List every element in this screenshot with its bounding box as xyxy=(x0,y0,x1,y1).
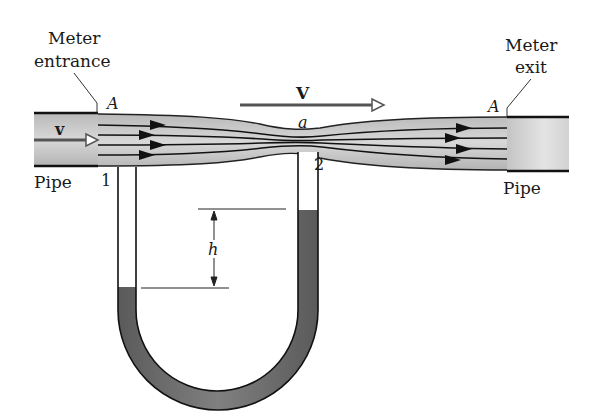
throat-velocity-label: V xyxy=(295,83,310,103)
pipe-right-label: Pipe xyxy=(503,178,541,198)
throat-area-label: a xyxy=(298,113,308,132)
hollow-arrowhead-icon xyxy=(372,99,384,111)
venturi-diagram: Meter entrance Meter exit A A a v V Pipe… xyxy=(0,0,597,419)
tap-1-label: 1 xyxy=(101,171,111,190)
left-tube-air xyxy=(118,167,136,287)
meter-exit-leader xyxy=(507,79,531,117)
meter-exit-label-line2: exit xyxy=(515,57,547,77)
meter-entrance-leader xyxy=(74,73,97,113)
pipe-velocity-label: v xyxy=(54,120,65,139)
entrance-area-label: A xyxy=(105,94,119,113)
manometer xyxy=(118,152,318,410)
meter-entrance-label-line1: Meter xyxy=(48,28,101,48)
meter-exit-label-line1: Meter xyxy=(505,35,558,55)
throat-velocity-arrow xyxy=(240,99,384,111)
exit-area-label: A xyxy=(486,97,500,116)
right-pipe xyxy=(507,117,569,171)
tap-2-label: 2 xyxy=(314,155,324,174)
meter-entrance-label-line2: entrance xyxy=(34,51,111,71)
height-label: h xyxy=(208,240,218,259)
pipe-left-label: Pipe xyxy=(34,172,72,192)
